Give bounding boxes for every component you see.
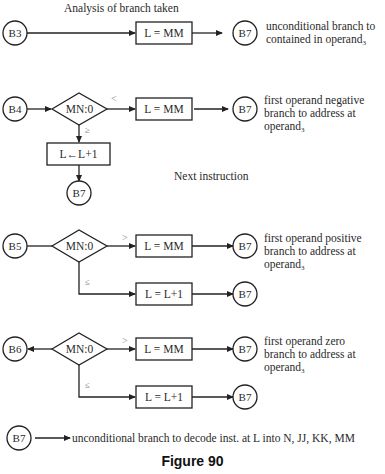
connector-b3-label: B3: [6, 27, 24, 40]
condition-less-equal: ≤: [85, 276, 90, 289]
condition-less-equal-2: ≤: [85, 379, 90, 392]
diagram-title: Analysis of branch taken: [64, 2, 179, 15]
footer-connector-b7-label: B7: [10, 432, 28, 445]
connector-b7-5-label: B7: [236, 288, 254, 301]
subscript: 3: [362, 39, 366, 47]
box-increment-1-label: L←L+1: [47, 148, 110, 161]
subscript: 3: [301, 126, 305, 134]
connector-b7-6-label: B7: [236, 343, 254, 356]
connector-b7-3-label: B7: [70, 187, 88, 200]
condition-less-than: <: [111, 92, 117, 105]
box-increment-2-label: L = L+1: [136, 288, 192, 301]
decision-b4-label: MN:0: [52, 103, 107, 116]
box-l-mm-3-label: L = MM: [136, 240, 192, 253]
description-b6: first operand zero branch to address at …: [264, 335, 356, 378]
connector-b6-label: B6: [6, 343, 24, 356]
description-line: operand: [264, 120, 301, 132]
box-increment-3-label: L = L+1: [136, 391, 192, 404]
description-b3: unconditional branch to contained in ope…: [266, 20, 375, 50]
description-line: branch to address at: [264, 348, 356, 361]
decision-b5-label: MN:0: [52, 240, 107, 253]
box-l-mm-2-label: L = MM: [136, 103, 192, 116]
condition-greater-than-2: >: [122, 334, 128, 347]
condition-greater-equal: ≥: [85, 124, 90, 137]
connector-b4-label: B4: [6, 103, 24, 116]
condition-greater-than: >: [122, 231, 128, 244]
description-line: first operand positive: [264, 232, 362, 245]
description-line: contained in operand: [266, 33, 362, 45]
footer-description: unconditional branch to decode inst. at …: [72, 432, 355, 445]
description-line: first operand zero: [264, 335, 356, 348]
box-l-mm-4-label: L = MM: [136, 343, 192, 356]
description-line: first operand negative: [264, 94, 364, 107]
description-line: operand: [264, 258, 301, 270]
subscript: 3: [301, 367, 305, 375]
subscript: 3: [301, 264, 305, 272]
box-l-mm-1-label: L = MM: [136, 27, 192, 40]
decision-b6-label: MN:0: [52, 343, 107, 356]
description-line: unconditional branch to: [266, 20, 375, 33]
connector-b5-label: B5: [6, 240, 24, 253]
description-line: branch to address at: [264, 107, 364, 120]
connector-b7-2-label: B7: [236, 103, 254, 116]
diagram-subtitle: Next instruction: [174, 170, 248, 183]
description-b5: first operand positive branch to address…: [264, 232, 362, 275]
connector-b7-7-label: B7: [236, 391, 254, 404]
description-b4: first operand negative branch to address…: [264, 94, 364, 137]
connector-b7-1-label: B7: [236, 27, 254, 40]
description-line: operand: [264, 361, 301, 373]
description-line: branch to address at: [264, 245, 362, 258]
connector-b7-4-label: B7: [236, 240, 254, 253]
figure-caption: Figure 90: [0, 453, 385, 469]
